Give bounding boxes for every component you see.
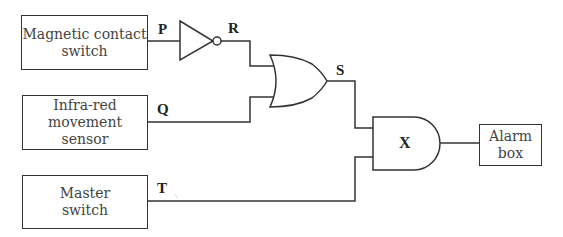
logic-circuit-diagram: Magnetic contact switch Infra-red moveme… <box>0 0 563 237</box>
signal-label-q: Q <box>157 101 169 118</box>
box-line: switch <box>60 202 110 219</box>
box-line: box <box>489 145 532 162</box>
wire-s <box>327 81 373 128</box>
box-line: Magnetic contact <box>22 26 146 43</box>
wire-r <box>221 41 276 66</box>
signal-label-t: T <box>157 180 167 197</box>
box-line: movement sensor <box>23 114 147 148</box>
wire-t <box>147 157 373 201</box>
box-line: Master <box>60 185 110 202</box>
magnetic-contact-switch-box: Magnetic contact switch <box>21 15 148 70</box>
box-line: switch <box>22 43 146 60</box>
stray-mark: \ <box>175 192 177 200</box>
box-line: Alarm <box>489 128 532 145</box>
not-gate-icon <box>180 21 213 60</box>
signal-label-s: S <box>336 62 344 79</box>
signal-label-p: P <box>158 21 167 38</box>
and-gate-label-x: X <box>399 134 411 152</box>
or-gate-icon <box>270 55 327 107</box>
master-switch-box: Master switch <box>22 175 148 229</box>
alarm-box: Alarm box <box>479 124 542 166</box>
not-gate-bubble-icon <box>213 37 221 45</box>
box-line: Infra-red <box>23 97 147 114</box>
infrared-movement-sensor-box: Infra-red movement sensor <box>22 95 148 150</box>
signal-label-r: R <box>228 20 239 37</box>
